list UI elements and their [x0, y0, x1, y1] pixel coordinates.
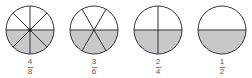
numerator: 2: [148, 58, 168, 66]
center-dot: [29, 29, 32, 32]
fraction-label-2-4: 2 4: [148, 58, 168, 76]
fraction-circle-4-8: [6, 6, 54, 54]
numerator: 3: [84, 58, 104, 66]
denominator: 4: [148, 68, 168, 76]
fraction-label-3-6: 3 6: [84, 58, 104, 76]
denominator: 8: [20, 68, 40, 76]
shaded-region: [198, 30, 246, 54]
numerator: 4: [20, 58, 40, 66]
numerator: 1: [212, 58, 232, 66]
fraction-label-1-2: 1 2: [212, 58, 232, 76]
denominator: 2: [212, 68, 232, 76]
fraction-circle-1-2: [198, 6, 246, 54]
fraction-label-4-8: 4 8: [20, 58, 40, 76]
shaded-region: [70, 30, 118, 54]
denominator: 6: [84, 68, 104, 76]
fraction-circle-2-4: [134, 6, 182, 54]
fraction-circle-3-6: [70, 6, 118, 54]
